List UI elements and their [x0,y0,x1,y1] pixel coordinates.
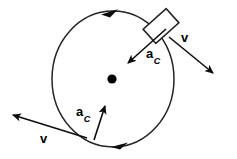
acceleration-label-top-right: aC [146,47,160,64]
accel-symbol-bottom-left: a [76,104,83,119]
circular-motion-svg [0,0,237,159]
center-dot [107,74,116,83]
accel-subscript-bottom-left: C [84,114,91,124]
velocity-label-top-right: v [181,31,188,44]
accel-subscript-top-right: C [154,56,161,66]
moving-block [143,9,179,44]
acceleration-label-bottom-left: aC [76,105,90,122]
acceleration-vector-bottom-left [94,106,105,140]
velocity-vector-top-right [169,37,213,73]
velocity-label-bottom-left: v [40,132,47,145]
accel-symbol-top-right: a [146,46,153,61]
circular-motion-figure: v aC aC v [0,0,237,159]
